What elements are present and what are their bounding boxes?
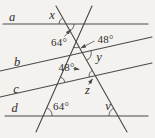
angle-arc-y — [87, 51, 92, 61]
line-d-label: d — [11, 101, 18, 115]
geometry-figure: a b c d x 64° 48° y 48° z 64° v — [0, 0, 155, 138]
angle-y-label: y — [94, 50, 102, 64]
angle-z-label: z — [84, 83, 90, 97]
line-a-label: a — [9, 10, 15, 24]
parallel-lines-transversals-diagram: a b c d x 64° 48° y 48° z 64° v — [0, 0, 155, 138]
angle-arc-64-bottom — [47, 108, 52, 116]
leader-48-top — [81, 41, 95, 48]
angle-arc-48-top — [73, 47, 79, 48]
angle-arc-48-mid — [61, 77, 66, 83]
angle-x-label: x — [48, 8, 55, 22]
angle-v-label: v — [105, 99, 111, 113]
angle-48-mid-label: 48° — [59, 61, 75, 73]
line-b-label: b — [14, 55, 20, 69]
line-c — [0, 63, 152, 97]
line-c-label: c — [13, 82, 19, 96]
angle-64-bottom-label: 64° — [53, 100, 69, 112]
angle-arc-x — [59, 18, 63, 24]
angle-48-top-label: 48° — [98, 33, 114, 45]
angle-64-top-label: 64° — [51, 36, 67, 48]
